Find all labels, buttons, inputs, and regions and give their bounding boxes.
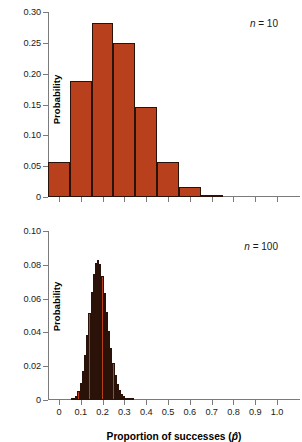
x-tick-label: 0.7	[205, 407, 217, 417]
x-axis-title-prefix: Proportion of successes (	[107, 431, 232, 442]
x-tick-label: 0.4	[140, 407, 152, 417]
y-tick-label: 0.05	[24, 161, 41, 171]
x-tick-label: 0.6	[184, 407, 196, 417]
x-tick-mark	[59, 400, 60, 405]
histogram-bar	[48, 162, 70, 197]
x-tick-label: 0	[56, 407, 61, 417]
histogram-bar	[132, 398, 134, 400]
y-tick-mark	[43, 74, 48, 75]
histogram-bar	[92, 23, 114, 197]
x-tick-mark	[81, 400, 82, 405]
p-hat-symbol: p̂	[232, 431, 238, 442]
histogram-bar	[179, 187, 201, 197]
x-tick-mark	[233, 400, 234, 405]
histogram-bars-n100	[48, 231, 288, 400]
x-tick-mark	[212, 197, 213, 202]
x-tick-label: 0.9	[249, 407, 261, 417]
x-tick-label: 0.5	[162, 407, 174, 417]
x-tick-mark	[233, 197, 234, 202]
y-tick-mark	[43, 400, 48, 401]
x-axis-title: Proportion of successes (p̂)	[48, 431, 300, 442]
y-tick-label: 0.20	[24, 69, 41, 79]
x-tick-mark	[59, 197, 60, 202]
x-tick-mark	[255, 400, 256, 405]
x-tick-mark	[146, 197, 147, 202]
x-tick-mark	[277, 400, 278, 405]
x-tick-label: 0.1	[74, 407, 86, 417]
x-tick-mark	[168, 400, 169, 405]
y-tick-mark	[43, 135, 48, 136]
y-tick-mark	[43, 105, 48, 106]
x-tick-mark	[124, 197, 125, 202]
y-tick-label: 0	[36, 395, 41, 405]
x-tick-mark	[124, 400, 125, 405]
x-tick-mark	[103, 197, 104, 202]
x-tick-label: 0.3	[118, 407, 130, 417]
x-tick-mark	[212, 400, 213, 405]
x-tick-mark	[277, 197, 278, 202]
chart-panel-n100: Probability n = 100 00.020.040.060.080.1…	[0, 213, 302, 434]
y-tick-label: 0.08	[24, 260, 41, 270]
y-tick-mark	[43, 166, 48, 167]
histogram-bars-n10	[48, 12, 288, 197]
y-tick-mark	[43, 366, 48, 367]
y-tick-mark	[43, 299, 48, 300]
y-tick-label: 0	[36, 192, 41, 202]
plot-area-n10: Probability n = 10 00.050.100.150.200.25…	[48, 12, 288, 197]
y-tick-label: 0.02	[24, 361, 41, 371]
y-tick-mark	[43, 231, 48, 232]
histogram-bar	[70, 81, 92, 197]
y-tick-label: 0.10	[24, 130, 41, 140]
y-tick-mark	[43, 12, 48, 13]
x-tick-mark	[190, 197, 191, 202]
x-tick-mark	[103, 400, 104, 405]
y-tick-mark	[43, 43, 48, 44]
y-tick-mark	[43, 197, 48, 198]
histogram-bar	[157, 162, 179, 197]
y-tick-mark	[43, 265, 48, 266]
histogram-bar	[135, 107, 157, 197]
y-tick-label: 0.10	[24, 226, 41, 236]
x-tick-label: 0.2	[96, 407, 108, 417]
chart-panel-n10: Probability n = 10 00.050.100.150.200.25…	[0, 0, 302, 213]
x-tick-label: 0.8	[227, 407, 239, 417]
x-tick-label: 1.0	[271, 407, 283, 417]
x-tick-mark	[81, 197, 82, 202]
x-tick-mark	[146, 400, 147, 405]
y-tick-mark	[43, 332, 48, 333]
y-tick-label: 0.06	[24, 294, 41, 304]
y-tick-label: 0.15	[24, 100, 41, 110]
x-tick-mark	[255, 197, 256, 202]
y-tick-label: 0.30	[24, 7, 41, 17]
y-tick-label: 0.04	[24, 327, 41, 337]
x-tick-mark	[190, 400, 191, 405]
y-tick-label: 0.25	[24, 38, 41, 48]
histogram-bar	[113, 43, 135, 197]
x-tick-mark	[168, 197, 169, 202]
plot-area-n100: Probability n = 100 00.020.040.060.080.1…	[48, 231, 288, 400]
x-axis-title-suffix: )	[238, 431, 241, 442]
